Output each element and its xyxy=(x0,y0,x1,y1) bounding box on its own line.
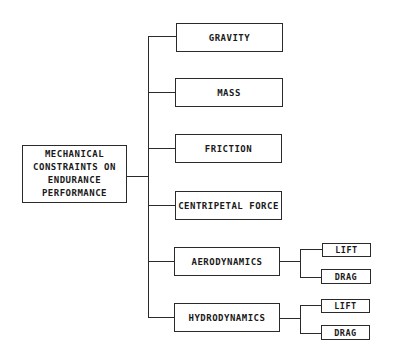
hydro-drag-connector xyxy=(300,333,321,334)
node-mass: MASS xyxy=(175,78,283,107)
hydro-lift-connector xyxy=(300,305,321,306)
node-friction-label: FRICTION xyxy=(205,144,252,154)
hydro-subtrunk xyxy=(300,305,301,333)
branch-connector-centripetal xyxy=(148,205,175,206)
node-aerodynamics-label: AERODYNAMICS xyxy=(191,257,262,267)
node-hydro-lift: LIFT xyxy=(321,299,370,313)
node-aero-drag: DRAG xyxy=(321,269,371,284)
node-gravity-label: GRAVITY xyxy=(209,33,250,43)
node-friction: FRICTION xyxy=(175,134,282,163)
branch-connector-friction xyxy=(148,148,175,149)
branch-connector-aerodynamics xyxy=(148,261,174,262)
node-hydrodynamics-label: HYDRODYNAMICS xyxy=(189,313,266,323)
root-label-line-3: ENDURANCE xyxy=(48,174,101,187)
main-trunk xyxy=(148,36,149,318)
root-label-line-4: PERFORMANCE xyxy=(42,187,107,200)
root-label-line-1: MECHANICAL xyxy=(45,148,104,161)
node-gravity: GRAVITY xyxy=(176,23,283,52)
aero-connector xyxy=(280,261,300,262)
aero-subtrunk xyxy=(300,249,301,277)
node-centripetal-force: CENTRIPETAL FORCE xyxy=(175,191,282,220)
root-connector xyxy=(127,176,148,177)
node-mass-label: MASS xyxy=(217,88,241,98)
node-aero-drag-label: DRAG xyxy=(335,272,357,282)
aero-lift-connector xyxy=(300,249,322,250)
node-aero-lift: LIFT xyxy=(322,243,371,257)
node-hydro-lift-label: LIFT xyxy=(334,301,356,311)
hydro-connector xyxy=(280,318,300,319)
node-hydrodynamics: HYDRODYNAMICS xyxy=(174,303,280,332)
branch-connector-hydrodynamics xyxy=(148,317,174,318)
root-label-line-2: CONSTRAINTS ON xyxy=(33,161,116,174)
root-node-mechanical-constraints: MECHANICAL CONSTRAINTS ON ENDURANCE PERF… xyxy=(22,145,127,203)
node-hydro-drag-label: DRAG xyxy=(334,328,356,338)
node-hydro-drag: DRAG xyxy=(321,325,370,340)
branch-connector-mass xyxy=(148,92,175,93)
node-centripetal-force-label: CENTRIPETAL FORCE xyxy=(178,201,279,211)
aero-drag-connector xyxy=(300,277,321,278)
branch-connector-gravity xyxy=(148,36,176,37)
node-aerodynamics: AERODYNAMICS xyxy=(174,247,280,276)
node-aero-lift-label: LIFT xyxy=(335,245,357,255)
